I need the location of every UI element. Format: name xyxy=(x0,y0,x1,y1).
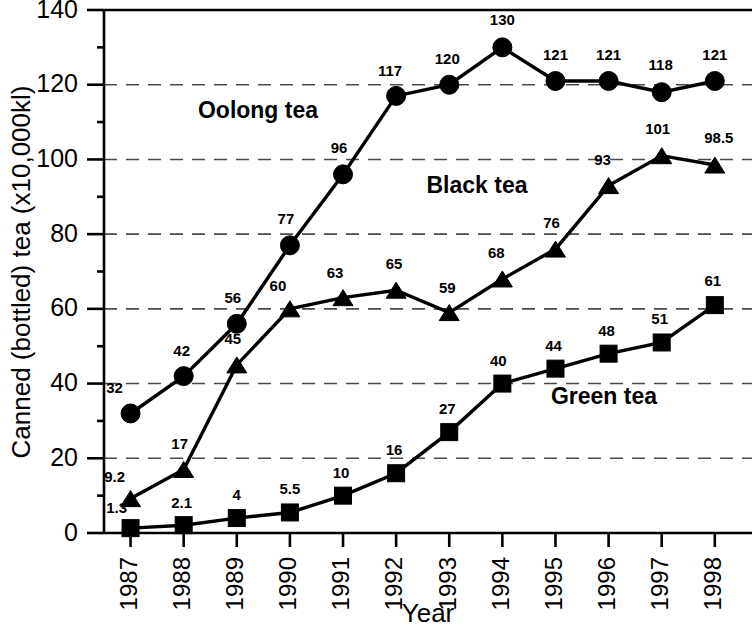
marker-circle xyxy=(280,236,299,255)
point-label-oolong-tea-1993: 120 xyxy=(435,50,460,67)
point-label-black-tea-1996: 93 xyxy=(594,151,611,168)
x-tick-label-1989: 1989 xyxy=(221,557,248,610)
marker-square xyxy=(122,520,139,537)
marker-square xyxy=(494,375,511,392)
line-chart: 020406080100120140 198719881989199019911… xyxy=(0,0,755,632)
y-tick-label-100: 100 xyxy=(36,144,78,172)
point-label-oolong-tea-1990: 77 xyxy=(278,210,295,227)
point-label-oolong-tea-1998: 121 xyxy=(702,46,727,63)
marker-circle xyxy=(493,38,512,57)
point-label-oolong-tea-1995: 121 xyxy=(543,46,568,63)
x-tick-label-1987: 1987 xyxy=(115,557,142,610)
marker-circle xyxy=(387,86,406,105)
marker-circle xyxy=(705,71,724,90)
marker-square xyxy=(441,424,458,441)
y-tick-label-40: 40 xyxy=(50,368,78,396)
x-tick-label-1998: 1998 xyxy=(699,557,726,610)
y-tick-label-80: 80 xyxy=(50,219,78,247)
point-label-black-tea-1993: 59 xyxy=(439,279,456,296)
marker-square xyxy=(388,465,405,482)
point-label-green-tea-1993: 27 xyxy=(439,400,456,417)
point-label-green-tea-1991: 10 xyxy=(333,464,350,481)
marker-circle xyxy=(546,71,565,90)
point-label-oolong-tea-1996: 121 xyxy=(596,46,621,63)
y-axis-title: Canned (bottled) tea (x10,000kl) xyxy=(6,86,36,459)
point-label-green-tea-1988: 2.1 xyxy=(171,494,192,511)
x-tick-label-1991: 1991 xyxy=(327,557,354,610)
x-tick-label-1995: 1995 xyxy=(540,557,567,610)
marker-circle xyxy=(174,367,193,386)
point-label-oolong-tea-1997: 118 xyxy=(649,56,673,73)
chart-background xyxy=(0,0,755,632)
point-label-oolong-tea-1992: 117 xyxy=(378,62,402,79)
point-label-oolong-tea-1991: 96 xyxy=(331,139,348,156)
marker-circle xyxy=(440,75,459,94)
point-label-oolong-tea-1989: 56 xyxy=(224,289,241,306)
point-label-black-tea-1992: 65 xyxy=(386,255,403,272)
point-label-green-tea-1997: 51 xyxy=(651,310,668,327)
point-label-green-tea-1996: 48 xyxy=(598,322,615,339)
marker-square xyxy=(175,517,192,534)
point-label-oolong-tea-1994: 130 xyxy=(490,11,515,28)
point-label-green-tea-1998: 61 xyxy=(704,272,721,289)
marker-circle xyxy=(334,165,353,184)
point-label-green-tea-1992: 16 xyxy=(386,441,403,458)
marker-square xyxy=(600,345,617,362)
y-tick-label-140: 140 xyxy=(36,0,78,23)
x-axis-title: Year xyxy=(402,598,455,628)
marker-square xyxy=(228,510,245,527)
marker-square xyxy=(653,334,670,351)
marker-square xyxy=(335,487,352,504)
point-label-black-tea-1995: 76 xyxy=(543,214,560,231)
point-label-oolong-tea-1988: 42 xyxy=(173,342,190,359)
point-label-green-tea-1989: 4 xyxy=(233,486,242,503)
marker-square xyxy=(547,360,564,377)
x-tick-label-1988: 1988 xyxy=(168,557,195,610)
point-label-green-tea-1994: 40 xyxy=(490,352,507,369)
chart-figure: 020406080100120140 198719881989199019911… xyxy=(0,0,755,632)
y-tick-label-60: 60 xyxy=(50,293,78,321)
series-label-oolong-tea: Oolong tea xyxy=(198,97,318,123)
point-label-black-tea-1989: 45 xyxy=(224,330,241,347)
y-tick-label-20: 20 xyxy=(50,443,78,471)
point-label-black-tea-1998: 98.5 xyxy=(704,129,733,146)
x-tick-label-1990: 1990 xyxy=(274,557,301,610)
y-tick-label-120: 120 xyxy=(36,69,78,97)
point-label-black-tea-1987: 9.2 xyxy=(104,468,125,485)
marker-square xyxy=(281,504,298,521)
x-tick-label-1997: 1997 xyxy=(646,557,673,610)
point-label-black-tea-1994: 68 xyxy=(488,244,505,261)
series-label-black-tea: Black tea xyxy=(426,172,527,198)
series-label-green-tea: Green tea xyxy=(551,383,657,409)
point-label-black-tea-1991: 63 xyxy=(327,264,344,281)
point-label-black-tea-1990: 60 xyxy=(270,277,287,294)
marker-circle xyxy=(121,404,140,423)
marker-square xyxy=(706,297,723,314)
point-label-green-tea-1990: 5.5 xyxy=(279,480,300,497)
x-tick-label-1996: 1996 xyxy=(593,557,620,610)
x-tick-label-1994: 1994 xyxy=(487,557,514,610)
point-label-green-tea-1987: 1.3 xyxy=(106,499,127,516)
marker-circle xyxy=(652,83,671,102)
point-label-black-tea-1997: 101 xyxy=(645,120,670,137)
point-label-black-tea-1988: 17 xyxy=(171,435,188,452)
y-tick-label-0: 0 xyxy=(64,518,78,546)
point-label-green-tea-1995: 44 xyxy=(545,337,562,354)
marker-circle xyxy=(599,71,618,90)
point-label-oolong-tea-1987: 32 xyxy=(106,379,123,396)
